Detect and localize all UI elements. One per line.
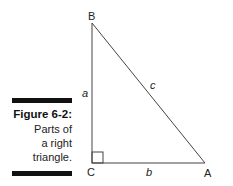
side-a-label: a	[82, 87, 88, 99]
vertex-b-label: B	[88, 10, 95, 22]
side-c-hypotenuse	[92, 23, 205, 163]
right-angle-marker-icon	[92, 152, 103, 163]
right-triangle-diagram: B C A a b c	[0, 0, 233, 186]
side-c-label: c	[150, 79, 156, 91]
vertex-c-label: C	[87, 166, 95, 178]
vertex-a-label: A	[204, 167, 212, 179]
side-b-label: b	[146, 166, 152, 178]
